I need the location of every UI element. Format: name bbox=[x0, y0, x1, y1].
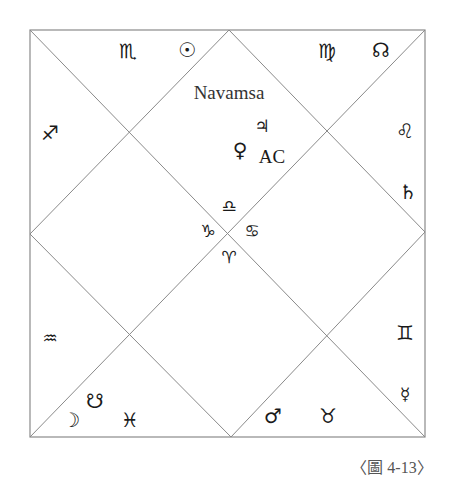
capricorn-sign-icon: ♑ bbox=[200, 223, 215, 240]
mars-planet-icon: ♂ bbox=[264, 406, 282, 426]
jupiter-planet-icon: ♃ bbox=[254, 118, 269, 135]
gemini-sign-icon: ♊ bbox=[396, 323, 414, 343]
venus-planet-icon: ♀ bbox=[233, 140, 248, 160]
figure-caption: 〈圖 4-13〉 bbox=[351, 454, 432, 478]
moon-planet-icon: ☽ bbox=[62, 410, 80, 430]
sagittarius-sign-icon: ♐ bbox=[41, 123, 59, 143]
sun-planet-icon: ☉ bbox=[178, 40, 196, 60]
saturn-planet-icon: ♄ bbox=[399, 182, 417, 202]
aries-sign-icon: ♈ bbox=[221, 249, 236, 266]
libra-sign-icon: ♎ bbox=[221, 198, 236, 215]
ascendant-label: AC bbox=[259, 146, 285, 168]
south-node-icon: ☋ bbox=[86, 391, 104, 411]
chart-title: Navamsa bbox=[194, 82, 265, 104]
north-node-icon: ☊ bbox=[372, 40, 390, 60]
mercury-planet-icon: ☿ bbox=[400, 386, 410, 403]
taurus-sign-icon: ♉ bbox=[319, 406, 337, 426]
pisces-sign-icon: ♓ bbox=[121, 410, 139, 430]
leo-sign-icon: ♌ bbox=[396, 121, 414, 141]
cancer-sign-icon: ♋ bbox=[244, 223, 259, 240]
virgo-sign-icon: ♍ bbox=[318, 41, 336, 61]
aquarius-sign-icon: ♒ bbox=[42, 330, 57, 347]
scorpio-sign-icon: ♏ bbox=[119, 41, 137, 61]
